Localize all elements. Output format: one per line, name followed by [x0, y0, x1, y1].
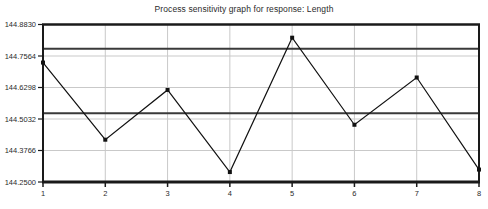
data-point-marker — [477, 168, 481, 172]
data-point-marker — [166, 88, 170, 92]
x-tick-label: 4 — [228, 189, 232, 198]
data-point-marker — [103, 138, 107, 142]
data-point-marker — [41, 61, 45, 65]
x-tick-label: 1 — [41, 189, 45, 198]
y-tick-label: 144.5032 — [5, 115, 36, 124]
process-sensitivity-chart: Process sensitivity graph for response: … — [0, 0, 488, 209]
series-line — [43, 38, 479, 172]
data-point-marker — [352, 123, 356, 127]
y-tick-label: 144.8830 — [5, 20, 36, 29]
y-tick-label: 144.6298 — [5, 83, 36, 92]
x-tick-label: 2 — [103, 189, 107, 198]
y-tick-label: 144.3766 — [5, 146, 36, 155]
y-tick-label: 144.7564 — [5, 52, 36, 61]
x-tick-label: 7 — [415, 189, 419, 198]
y-tick-label: 144.2500 — [5, 178, 36, 187]
x-tick-label: 3 — [165, 189, 169, 198]
x-tick-label: 5 — [290, 189, 294, 198]
x-tick-label: 6 — [352, 189, 356, 198]
data-point-marker — [228, 170, 232, 174]
x-tick-label: 8 — [477, 189, 481, 198]
data-point-marker — [290, 36, 294, 40]
plot-area: 144.8830144.7564144.6298144.5032144.3766… — [0, 0, 488, 209]
data-point-marker — [415, 75, 419, 79]
